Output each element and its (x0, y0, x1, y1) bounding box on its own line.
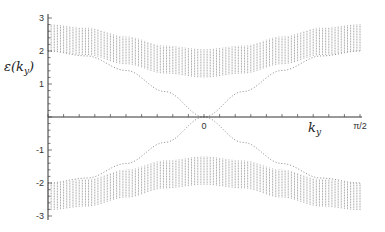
y-tick-label: -1 (36, 145, 44, 155)
x-axis-label: ky (308, 120, 322, 137)
y-tick-label: 2 (39, 46, 44, 56)
y-tick-label: -2 (36, 178, 44, 188)
x-tick-label: π/2 (353, 121, 367, 131)
band-structure-chart: 321-1-2-3 0π/2 ε(ky) ky (0, 0, 385, 232)
y-tick-label: 1 (39, 79, 44, 89)
y-ticks: 321-1-2-3 (36, 13, 52, 221)
y-axis-label: ε(ky) (4, 59, 34, 76)
y-tick-label: 3 (39, 13, 44, 23)
y-tick-label: -3 (36, 211, 44, 221)
x-tick-label: 0 (201, 121, 206, 131)
